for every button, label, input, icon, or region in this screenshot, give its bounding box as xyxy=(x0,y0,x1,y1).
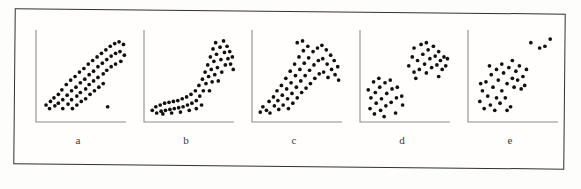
data-point xyxy=(79,100,83,104)
panel-b-label: b xyxy=(134,134,238,146)
data-point xyxy=(172,100,176,104)
data-point xyxy=(525,68,529,72)
data-point xyxy=(293,62,297,66)
data-point xyxy=(500,62,504,66)
data-point xyxy=(378,85,382,89)
data-point xyxy=(258,110,262,114)
data-point xyxy=(425,71,429,75)
data-point xyxy=(272,95,276,99)
data-point xyxy=(312,63,316,67)
data-point xyxy=(225,44,229,48)
data-point xyxy=(73,75,77,79)
data-point xyxy=(495,96,499,100)
data-point xyxy=(71,107,75,111)
data-point xyxy=(197,84,201,88)
data-point xyxy=(503,96,507,100)
data-point xyxy=(435,63,439,67)
data-point xyxy=(322,70,326,74)
panel-a: a xyxy=(26,24,130,159)
data-point xyxy=(302,61,306,65)
data-point xyxy=(208,89,212,93)
data-point xyxy=(329,53,333,57)
data-point xyxy=(261,105,265,109)
data-point xyxy=(548,37,552,41)
data-point xyxy=(198,94,202,98)
data-point xyxy=(481,89,485,93)
data-point xyxy=(66,102,70,106)
panel-b-plot xyxy=(134,24,238,131)
data-point xyxy=(64,83,68,87)
data-point xyxy=(437,75,441,79)
data-point xyxy=(84,97,88,101)
panel-d-axes xyxy=(360,30,450,122)
panel-d: d xyxy=(350,24,454,159)
data-point xyxy=(332,59,336,63)
data-point xyxy=(498,101,502,105)
data-point xyxy=(92,69,96,73)
data-point xyxy=(194,99,198,103)
data-point xyxy=(320,44,324,48)
data-point xyxy=(496,78,500,82)
data-point xyxy=(502,71,506,75)
data-point xyxy=(426,48,430,52)
data-point xyxy=(65,93,69,97)
data-point xyxy=(170,111,174,115)
data-point xyxy=(87,83,91,87)
data-point xyxy=(168,108,172,112)
data-point xyxy=(511,76,515,80)
data-point xyxy=(69,78,73,82)
data-point xyxy=(190,101,194,105)
data-point xyxy=(317,72,321,76)
panel-e-points xyxy=(478,37,552,112)
data-point xyxy=(44,103,48,107)
data-point xyxy=(218,45,222,49)
data-point xyxy=(60,88,64,92)
data-point xyxy=(289,81,293,85)
data-point xyxy=(82,67,86,71)
data-point xyxy=(509,105,513,109)
panel-d-plot xyxy=(350,24,454,131)
data-point xyxy=(281,103,285,107)
data-point xyxy=(440,68,444,72)
panel-a-label: a xyxy=(26,134,130,146)
data-point xyxy=(200,103,204,107)
data-point xyxy=(507,66,511,70)
panel-d-svg xyxy=(350,24,454,131)
data-point xyxy=(307,56,311,60)
data-point xyxy=(337,78,341,82)
data-point xyxy=(377,76,381,80)
data-point xyxy=(505,108,509,112)
data-point xyxy=(439,59,443,63)
panel-d-label: d xyxy=(350,134,454,146)
data-point xyxy=(117,40,121,44)
data-point xyxy=(401,103,405,107)
data-point xyxy=(484,80,488,84)
data-point xyxy=(226,57,230,61)
data-point xyxy=(88,92,92,96)
data-point xyxy=(428,57,432,61)
data-point xyxy=(223,63,227,67)
data-point xyxy=(163,101,167,105)
panel-b-axes xyxy=(144,30,234,122)
data-point xyxy=(369,96,373,100)
data-point xyxy=(295,96,299,100)
data-point xyxy=(395,96,399,100)
data-point xyxy=(516,78,520,82)
data-point xyxy=(268,111,272,115)
data-point xyxy=(313,76,317,80)
data-point xyxy=(176,99,180,103)
panel-c-svg xyxy=(242,24,346,131)
data-point xyxy=(433,54,437,58)
data-point xyxy=(519,87,523,91)
panel-e-label: e xyxy=(458,134,562,146)
data-point xyxy=(511,59,515,63)
data-point xyxy=(100,52,104,56)
data-point xyxy=(207,75,211,79)
data-point xyxy=(444,64,448,68)
data-point xyxy=(57,92,61,96)
data-point xyxy=(390,87,394,91)
data-point xyxy=(201,89,205,93)
panel-b-svg xyxy=(134,24,238,131)
data-point xyxy=(84,87,88,91)
data-point xyxy=(109,54,113,58)
